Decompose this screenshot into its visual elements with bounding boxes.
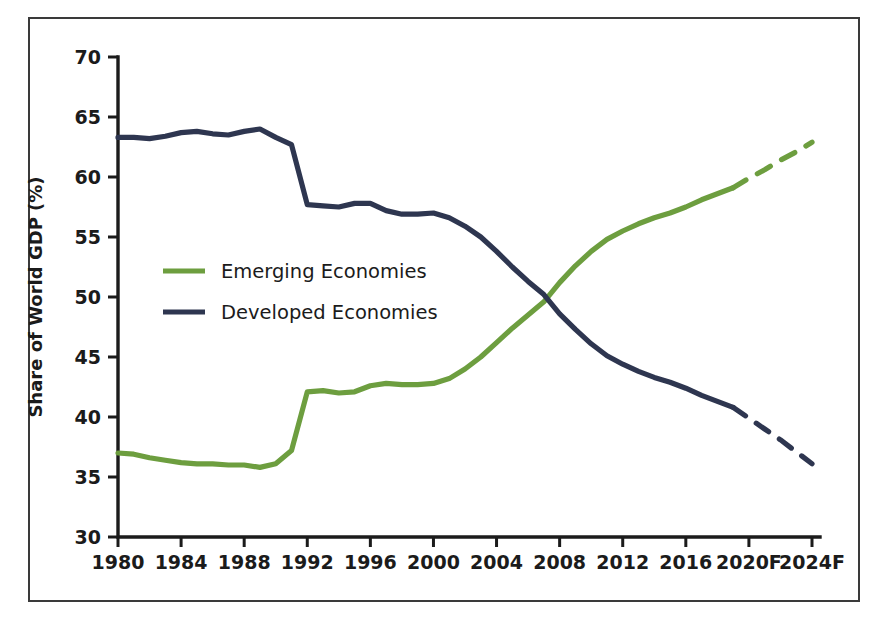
y-tick-label: 55 xyxy=(75,226,101,248)
x-tick-label: 2020F xyxy=(716,551,782,573)
y-tick-label: 65 xyxy=(75,106,101,128)
chart-figure: 303540455055606570 198019841988199219962… xyxy=(0,0,883,627)
x-tick-label: 2008 xyxy=(533,551,586,573)
x-tick-label: 2016 xyxy=(659,551,712,573)
y-axis-title-label: Share of World GDP (%) xyxy=(25,176,46,417)
y-tick-label: 45 xyxy=(75,346,101,368)
x-tick-label: 1980 xyxy=(92,551,145,573)
y-tick-label: 60 xyxy=(75,166,101,188)
series-line-solid-0 xyxy=(118,188,733,468)
x-tick-label: 1992 xyxy=(281,551,334,573)
y-tick-label: 70 xyxy=(75,46,101,68)
x-tick-label: 2000 xyxy=(407,551,460,573)
y-axis-title: Share of World GDP (%) xyxy=(25,176,46,417)
x-tick-label: 2004 xyxy=(470,551,523,573)
y-tick-label: 35 xyxy=(75,466,101,488)
x-tick-label: 1996 xyxy=(344,551,397,573)
y-tick-label: 50 xyxy=(75,286,101,308)
series-line-forecast-1 xyxy=(733,407,812,463)
data-series-group xyxy=(118,129,812,467)
x-tick-label: 1984 xyxy=(155,551,208,573)
x-axis-ticks: 1980198419881992199620002004200820122016… xyxy=(92,537,845,573)
x-tick-label: 1988 xyxy=(218,551,271,573)
series-line-forecast-0 xyxy=(733,142,812,188)
y-tick-label: 30 xyxy=(75,526,101,548)
legend-label-0: Emerging Economies xyxy=(221,260,427,283)
y-tick-label: 40 xyxy=(75,406,101,428)
x-tick-label: 2024F xyxy=(779,551,845,573)
line-chart-plot: 303540455055606570 198019841988199219962… xyxy=(0,0,883,627)
legend-label-1: Developed Economies xyxy=(221,301,438,324)
x-tick-label: 2012 xyxy=(596,551,649,573)
chart-legend: Emerging EconomiesDeveloped Economies xyxy=(163,260,438,324)
y-axis-ticks: 303540455055606570 xyxy=(75,46,118,548)
